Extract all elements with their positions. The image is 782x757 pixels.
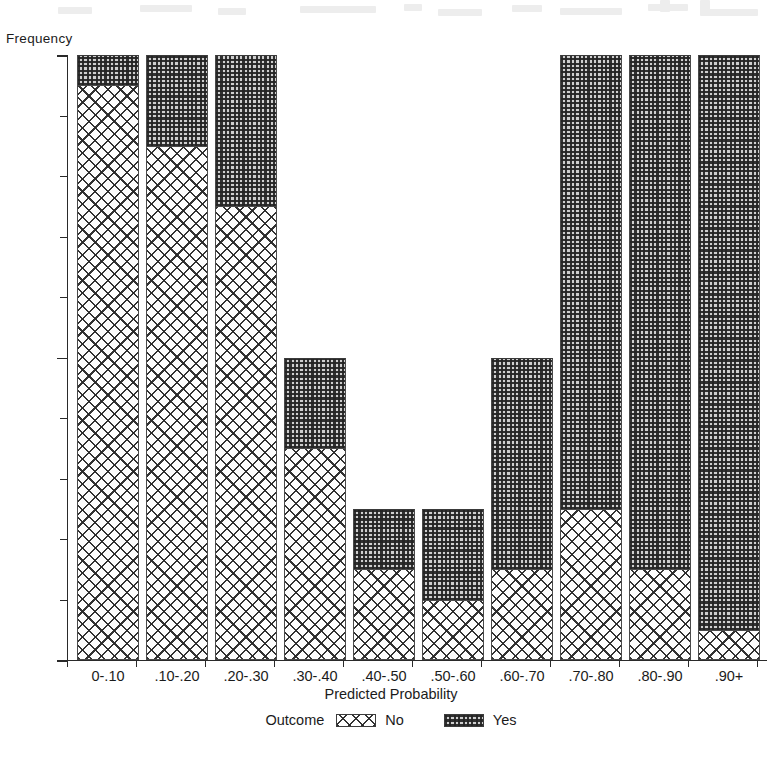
scan-bleed-through (0, 0, 782, 34)
y-minor-tick (60, 418, 67, 419)
legend-swatch-yes-icon (444, 714, 484, 727)
y-tick-0 (57, 660, 67, 662)
bar-segment-no (629, 569, 691, 660)
bar-.70-.80[interactable] (560, 55, 622, 660)
x-axis-title: Predicted Probability (0, 686, 782, 702)
y-minor-tick (60, 479, 67, 480)
bar-segment-yes (215, 55, 277, 206)
bar-segment-no (491, 569, 553, 660)
legend-item-no[interactable]: No (336, 712, 404, 728)
bar-segment-yes (629, 55, 691, 569)
y-tick-10 (57, 358, 67, 360)
y-minor-tick (60, 237, 67, 238)
x-tick (481, 660, 482, 667)
x-tick (205, 660, 206, 667)
bar-0-.10[interactable] (77, 55, 139, 660)
legend-swatch-no-icon (336, 714, 376, 727)
bar-segment-no (215, 206, 277, 660)
bar-segment-no (353, 569, 415, 660)
bar-segment-no (284, 448, 346, 660)
x-tick (67, 660, 68, 667)
x-tick (136, 660, 137, 667)
bar-.30-.40[interactable] (284, 358, 346, 661)
bar-.60-.70[interactable] (491, 358, 553, 661)
bar-.20-.30[interactable] (215, 55, 277, 660)
y-axis-title: Frequency (6, 31, 72, 46)
x-tick (412, 660, 413, 667)
bar-segment-no (560, 509, 622, 660)
y-minor-tick (60, 297, 67, 298)
x-tick-label-0-.10: 0-.10 (77, 668, 139, 684)
bar-.80-.90[interactable] (629, 55, 691, 660)
legend-label-no: No (385, 712, 404, 728)
bar-segment-yes (491, 358, 553, 570)
x-tick (619, 660, 620, 667)
x-tick (688, 660, 689, 667)
x-axis-line (67, 660, 767, 661)
x-tick-label-.40-.50: .40-.50 (353, 668, 415, 684)
x-tick (757, 660, 758, 667)
y-minor-tick (60, 116, 67, 117)
bar-segment-yes (146, 55, 208, 146)
bar-segment-yes (284, 358, 346, 449)
x-tick (343, 660, 344, 667)
x-tick-label-.10-.20: .10-.20 (146, 668, 208, 684)
bar-segment-yes (422, 509, 484, 600)
bar-segment-yes (560, 55, 622, 509)
y-minor-tick (60, 600, 67, 601)
x-tick-label-.30-.40: .30-.40 (284, 668, 346, 684)
legend-label-yes: Yes (493, 712, 517, 728)
x-tick-label-.70-.80: .70-.80 (560, 668, 622, 684)
bar-segment-yes (77, 55, 139, 85)
x-tick-label-.50-.60: .50-.60 (422, 668, 484, 684)
y-axis-line (67, 55, 68, 661)
bar-segment-no (422, 600, 484, 661)
bar-segment-no (146, 146, 208, 660)
legend-item-yes[interactable]: Yes (444, 712, 517, 728)
x-tick (550, 660, 551, 667)
legend: Outcome No Yes (0, 712, 782, 728)
bar-.10-.20[interactable] (146, 55, 208, 660)
bar-segment-no (77, 85, 139, 660)
bar-.90+[interactable] (698, 55, 760, 660)
bar-segment-yes (353, 509, 415, 570)
plot-area: 20 10 0 0-.10.10-.20.20-.30.30-.40.40-.5… (76, 55, 766, 660)
x-tick-label-.20-.30: .20-.30 (215, 668, 277, 684)
y-minor-tick (60, 176, 67, 177)
bar-segment-yes (698, 55, 760, 630)
predicted-probability-histogram: Frequency 20 10 0 0-.10. (0, 0, 782, 757)
legend-title: Outcome (265, 712, 324, 728)
y-tick-20 (57, 55, 67, 57)
x-tick-label-.90+: .90+ (698, 668, 760, 684)
bar-segment-no (698, 630, 760, 660)
x-tick (274, 660, 275, 667)
x-tick-label-.60-.70: .60-.70 (491, 668, 553, 684)
bar-.50-.60[interactable] (422, 509, 484, 660)
y-minor-tick (60, 539, 67, 540)
bar-.40-.50[interactable] (353, 509, 415, 660)
x-tick-label-.80-.90: .80-.90 (629, 668, 691, 684)
